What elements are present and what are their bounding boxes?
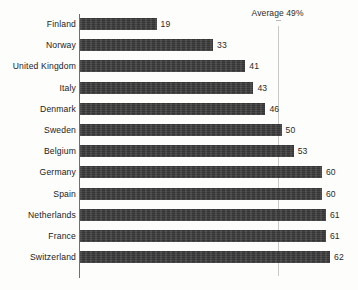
category-label: Finland (47, 18, 76, 30)
bar-value-label: 61 (330, 230, 340, 242)
bar (80, 18, 157, 30)
category-label: Netherlands (28, 209, 76, 221)
bar-value-label: 33 (217, 39, 227, 51)
bar-row: Norway33 (0, 39, 358, 51)
category-label: Sweden (44, 124, 76, 136)
bar-row: Germany60 (0, 166, 358, 178)
bar-row: Netherlands61 (0, 209, 358, 221)
bar (80, 166, 322, 178)
bar (80, 145, 294, 157)
bar (80, 124, 282, 136)
category-label: Norway (46, 39, 76, 51)
bar-value-label: 19 (161, 18, 171, 30)
bar-row: Italy43 (0, 82, 358, 94)
bar-value-label: 60 (326, 188, 336, 200)
bar-value-label: 62 (334, 251, 344, 263)
bar (80, 209, 326, 221)
category-label: Switzerland (30, 251, 76, 263)
bar-row: Sweden50 (0, 124, 358, 136)
bar-row: Finland19 (0, 18, 358, 30)
bar-row: United Kingdom41 (0, 60, 358, 72)
category-label: Denmark (40, 103, 76, 115)
bar (80, 251, 330, 263)
bar-value-label: 50 (286, 124, 296, 136)
bar-row: Switzerland62 (0, 251, 358, 263)
bar (80, 188, 322, 200)
bar (80, 103, 265, 115)
category-label: France (48, 230, 76, 242)
category-label: Belgium (44, 145, 76, 157)
category-label: United Kingdom (13, 60, 76, 72)
average-reference-label: Average 49% (252, 8, 304, 18)
bar (80, 60, 245, 72)
bar-value-label: 60 (326, 166, 336, 178)
plot-area: Average 49% Finland19Norway33United King… (0, 0, 358, 290)
category-label: Spain (53, 188, 76, 200)
bar-chart: Average 49% Finland19Norway33United King… (0, 0, 358, 290)
bar-value-label: 61 (330, 209, 340, 221)
category-label: Germany (40, 166, 76, 178)
bar (80, 39, 213, 51)
bar-row: Spain60 (0, 188, 358, 200)
bar (80, 82, 253, 94)
bar-row: France61 (0, 230, 358, 242)
bar-row: Denmark46 (0, 103, 358, 115)
bar (80, 230, 326, 242)
bar-value-label: 53 (298, 145, 308, 157)
bar-value-label: 43 (257, 82, 267, 94)
category-label: Italy (59, 82, 76, 94)
bar-value-label: 46 (269, 103, 279, 115)
bar-row: Belgium53 (0, 145, 358, 157)
bar-value-label: 41 (249, 60, 259, 72)
